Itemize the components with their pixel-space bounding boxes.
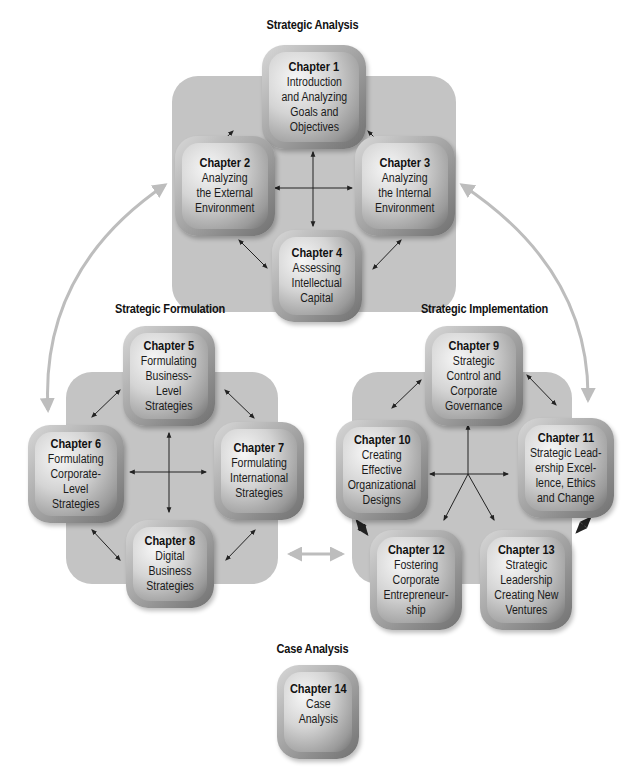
chapter-number: Chapter 5: [144, 339, 195, 354]
chapter-number: Chapter 14: [290, 682, 347, 697]
chapter-title: Strategic Leadership Creating New Ventur…: [494, 558, 558, 618]
section-title-analysis: Strategic Analysis: [227, 18, 399, 32]
chapter-title: Assessing Intellectual Capital: [292, 261, 342, 306]
chapter-number: Chapter 1: [289, 60, 340, 75]
chapter-number: Chapter 9: [449, 339, 500, 354]
chapter-title: Creating Effective Organizational Design…: [348, 448, 416, 508]
chapter-title: Introduction and Analyzing Goals and Obj…: [281, 75, 347, 135]
chapter-number: Chapter 7: [234, 441, 285, 456]
section-title-implementation: Strategic Implementation: [403, 302, 566, 316]
chapter-9-box: Chapter 9Strategic Control and Corporate…: [425, 326, 523, 426]
chapter-title: Digital Business Strategies: [146, 549, 194, 594]
chapter-11-box: Chapter 11Strategic Lead- ership Excel- …: [518, 418, 614, 518]
chapter-13-box: Chapter 13Strategic Leadership Creating …: [480, 530, 572, 630]
chapter-number: Chapter 2: [200, 156, 251, 171]
chapter-1-box: Chapter 1Introduction and Analyzing Goal…: [262, 45, 366, 149]
chapter-title: Strategic Control and Corporate Governan…: [445, 354, 503, 414]
chapter-number: Chapter 11: [538, 431, 594, 446]
chapter-5-box: Chapter 5Formulating Business- Level Str…: [123, 326, 215, 426]
chapter-8-box: Chapter 8Digital Business Strategies: [126, 520, 214, 608]
chapter-number: Chapter 10: [354, 433, 411, 448]
chapter-3-box: Chapter 3Analyzing the Internal Environm…: [355, 136, 455, 236]
chapter-title: Fostering Corporate Entrepreneur- ship: [383, 558, 448, 618]
chapter-6-box: Chapter 6Formulating Corporate- Level St…: [28, 425, 124, 523]
chapter-title: Formulating Business- Level Strategies: [141, 354, 197, 414]
chapter-12-box: Chapter 12Fostering Corporate Entreprene…: [370, 530, 462, 630]
chapter-10-box: Chapter 10Creating Effective Organizatio…: [336, 420, 428, 520]
chapter-title: Analyzing the External Environment: [195, 171, 254, 216]
chapter-title: Case Analysis: [298, 697, 337, 727]
section-title-formulation: Strategic Formulation: [100, 302, 241, 316]
chapter-number: Chapter 6: [51, 437, 102, 452]
chapter-title: Formulating Corporate- Level Strategies: [48, 452, 104, 512]
chapter-14-box: Chapter 14Case Analysis: [277, 665, 359, 759]
chapter-2-box: Chapter 2Analyzing the External Environm…: [175, 136, 275, 236]
chapter-number: Chapter 3: [380, 156, 431, 171]
section-title-case: Case Analysis: [258, 642, 368, 656]
chapter-7-box: Chapter 7Formulating International Strat…: [214, 422, 304, 520]
chapter-title: Formulating International Strategies: [230, 456, 288, 501]
chapter-title: Analyzing the Internal Environment: [375, 171, 434, 216]
chapter-number: Chapter 8: [145, 534, 196, 549]
chapter-number: Chapter 12: [388, 543, 445, 558]
chapter-number: Chapter 13: [498, 543, 555, 558]
chapter-title: Strategic Lead- ership Excel- lence, Eth…: [530, 446, 602, 506]
chapter-number: Chapter 4: [292, 246, 343, 261]
chapter-4-box: Chapter 4Assessing Intellectual Capital: [272, 230, 362, 322]
